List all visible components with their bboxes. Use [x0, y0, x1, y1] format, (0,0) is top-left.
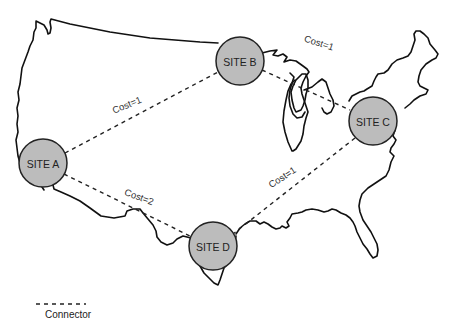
network-diagram: Cost=1 Cost=1 Cost=2 Cost=1 SITE A SITE …: [0, 0, 453, 329]
cost-label-a-d: Cost=2: [123, 186, 155, 207]
site-b-label: SITE B: [223, 56, 256, 68]
site-d-label: SITE D: [196, 241, 230, 253]
site-c-label: SITE C: [356, 116, 390, 128]
connector-a-d[interactable]: [64, 174, 190, 236]
cost-label-b-c: Cost=1: [303, 33, 335, 53]
legend: Connector: [36, 304, 92, 320]
connectors: [64, 70, 355, 236]
connector-c-d[interactable]: [233, 138, 355, 234]
legend-connector-label: Connector: [45, 309, 92, 320]
site-b[interactable]: SITE B: [216, 37, 264, 85]
cost-label-c-d: Cost=1: [266, 164, 297, 190]
site-d[interactable]: SITE D: [189, 222, 237, 270]
connector-a-b[interactable]: [65, 72, 218, 153]
site-a[interactable]: SITE A: [19, 139, 67, 187]
site-c[interactable]: SITE C: [349, 97, 397, 145]
site-a-label: SITE A: [27, 158, 60, 170]
cost-label-a-b: Cost=1: [111, 94, 143, 116]
